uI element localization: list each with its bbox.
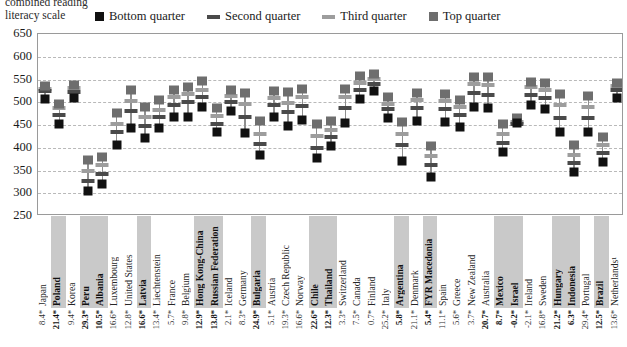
marker-second-quarter (310, 146, 323, 150)
marker-second-quarter (467, 91, 480, 95)
marker-second-quarter (610, 88, 623, 92)
legend-item-top-quarter: Top quarter (429, 9, 501, 24)
marker-third-quarter (196, 88, 209, 92)
data-point-group (338, 34, 352, 214)
x-axis-label-text: United States (123, 216, 134, 308)
marker-top-quarter (54, 99, 64, 108)
x-axis-label-text: Korea (66, 216, 77, 308)
variance-value: 16.8* (537, 310, 551, 347)
marker-second-quarter (267, 103, 280, 107)
variance-value-text: 5.1* (266, 310, 276, 325)
marker-top-quarter (297, 85, 307, 94)
x-axis-label-text: Luxembourg (108, 216, 119, 308)
variance-value-text: 0.7* (366, 310, 376, 325)
marker-bottom-quarter (369, 87, 378, 96)
variance-value-text: -2.1* (523, 310, 533, 328)
x-axis-label-text: Switzerland (337, 216, 348, 308)
x-axis-label-japan: Japan (37, 216, 51, 308)
marker-top-quarter (369, 70, 379, 79)
data-point-group (452, 34, 466, 214)
marker-bottom-quarter (612, 94, 621, 103)
marker-third-quarter (267, 96, 280, 100)
marker-third-quarter (467, 82, 480, 86)
variance-value-text: 5.4* (423, 310, 433, 325)
marker-bottom-quarter (226, 107, 235, 116)
variance-value-text: 9.4* (66, 310, 76, 325)
marker-top-quarter (540, 79, 550, 88)
x-axis-label-belgium: Belgium (180, 216, 194, 308)
data-point-group (52, 34, 66, 214)
x-axis-label-text: Finland (366, 216, 377, 308)
marker-second-quarter (124, 109, 137, 113)
marker-third-quarter (396, 132, 409, 136)
y-axis-tick-label: 250 (0, 209, 32, 222)
data-point-group (395, 34, 409, 214)
x-axis-label-australia: Australia (480, 216, 494, 308)
x-axis-label-austria: Austria (266, 216, 280, 308)
marker-top-quarter (269, 87, 279, 96)
marker-bottom-quarter (126, 124, 135, 133)
marker-third-quarter (182, 92, 195, 96)
marker-second-quarter (439, 107, 452, 111)
marker-top-quarter (97, 152, 107, 161)
variance-value: 5.1* (266, 310, 280, 347)
marker-second-quarter (353, 88, 366, 92)
variance-value-text: 9.8* (180, 310, 190, 325)
variance-value-text: 8.3* (237, 310, 247, 325)
x-axis-label-text: Australia (480, 216, 491, 308)
variance-value: -0.2* (509, 310, 523, 347)
legend-item-second-quarter: Second quarter (207, 9, 300, 24)
data-point-group (567, 34, 581, 214)
marker-second-quarter (167, 103, 180, 107)
variance-value: 16.6* (137, 310, 151, 347)
legend-swatch-dash-icon (207, 15, 220, 19)
y-axis-tick-label: 300 (0, 186, 32, 199)
marker-bottom-quarter (98, 180, 107, 189)
marker-bottom-quarter (312, 153, 321, 162)
marker-third-quarter (124, 99, 137, 103)
x-axis-label-chile: Chile (309, 216, 323, 308)
marker-third-quarter (139, 115, 152, 119)
marker-second-quarter (110, 130, 123, 134)
marker-top-quarter (583, 92, 593, 101)
variance-value-text: 3.7* (466, 310, 476, 325)
variance-explained-row: 8.4*21.4*9.4*29.3*10.5*16.6*12.8*16.6*13… (37, 310, 623, 347)
marker-second-quarter (339, 106, 352, 110)
marker-second-quarter (82, 179, 95, 183)
x-axis-label-text: Italy (380, 216, 391, 308)
marker-bottom-quarter (498, 147, 507, 156)
variance-value-text: 21.2* (552, 310, 562, 329)
x-axis-label-portugal: Portugal (580, 216, 594, 308)
legend-label-top-quarter: Top quarter (443, 9, 501, 24)
marker-second-quarter (425, 163, 438, 167)
marker-second-quarter (282, 110, 295, 114)
variance-value-text: 8.4* (37, 310, 47, 325)
variance-value: 5.7* (166, 310, 180, 347)
x-axis-label-hungary: Hungary (552, 216, 566, 308)
marker-second-quarter (396, 143, 409, 147)
marker-top-quarter (83, 156, 93, 165)
x-axis-label-united-states: United States (123, 216, 137, 308)
variance-value-text: 16.6* (294, 310, 304, 329)
data-point-group (81, 34, 95, 214)
x-axis-label-liechtenstein: Liechtenstein (151, 216, 165, 308)
variance-value-text: 16.8* (537, 310, 547, 329)
marker-bottom-quarter (41, 95, 50, 104)
data-point-group (67, 34, 81, 214)
marker-third-quarter (339, 95, 352, 99)
marker-top-quarter (69, 81, 79, 90)
x-axis-label-argentina: Argentina (394, 216, 408, 308)
variance-value: 16.6* (294, 310, 308, 347)
marker-bottom-quarter (341, 119, 350, 128)
variance-value: 22.6* (309, 310, 323, 347)
marker-top-quarter (598, 132, 608, 141)
marker-top-quarter (569, 141, 579, 150)
marker-top-quarter (183, 83, 193, 92)
x-axis-label-hong-kong-china: Hong Kong-China (194, 216, 208, 308)
data-point-group (181, 34, 195, 214)
x-axis-label-text: Belgium (180, 216, 191, 308)
variance-value-text: 11.1* (437, 310, 447, 329)
x-axis-category-labels: JapanPolandKoreaPeruAlbaniaLuxembourgUni… (37, 216, 623, 308)
variance-value: 8.7* (494, 310, 508, 347)
marker-top-quarter (340, 84, 350, 93)
